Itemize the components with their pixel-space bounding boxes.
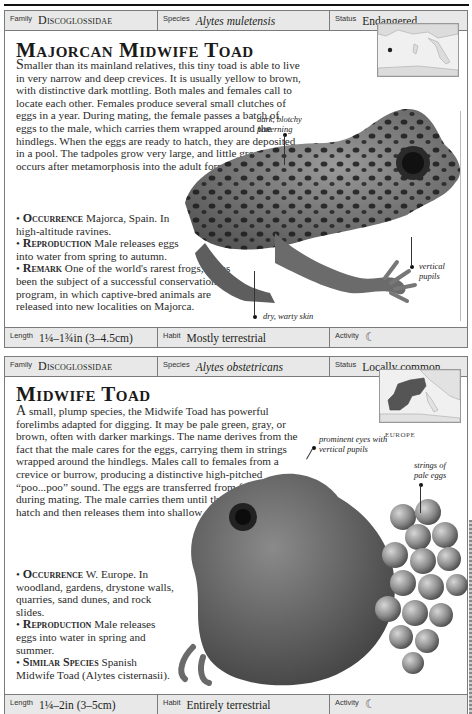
bullets-block-top: • Occurrence Majorca, Spain. In high-alt… <box>16 212 186 313</box>
footer-bar: Length 1¼–2in (3–5cm) Habit Entirely ter… <box>5 694 467 714</box>
family-label: Family <box>10 14 32 23</box>
annotation-dot <box>253 315 257 319</box>
activity-cell: Activity ☾ <box>330 695 467 714</box>
drop-letter: A <box>16 403 26 418</box>
bullet-reproduction: • Reproduction Male releases eggs into w… <box>16 618 176 656</box>
activity-label: Activity <box>335 698 359 707</box>
species-value: Alytes obstetricans <box>196 361 283 373</box>
habit-cell: Habit Mostly terrestrial <box>158 328 330 347</box>
habit-value: Entirely terrestrial <box>187 699 271 711</box>
species-entry-majorcan-midwife-toad: Family Discoglossidae Species Alytes mul… <box>4 10 468 348</box>
entry-title: Midwife Toad <box>16 384 151 405</box>
leader-line <box>284 135 285 165</box>
family-cell: Family Discoglossidae <box>5 357 158 376</box>
top-rule <box>4 4 469 6</box>
range-map-europe <box>379 369 461 423</box>
leader-line <box>254 271 255 315</box>
annotation-skin: dry, warty skin <box>263 312 313 322</box>
status-label: Status <box>335 14 356 23</box>
species-entry-midwife-toad: Family Discoglossidae Species Alytes obs… <box>4 356 468 714</box>
habit-value: Mostly terrestrial <box>187 332 267 344</box>
family-cell: Family Discoglossidae <box>5 11 158 30</box>
bullet-similar-species: • Similar Species Spanish Midwife Toad (… <box>16 656 176 681</box>
bullet-occurrence: • Occurrence W. Europe. In woodland, gar… <box>16 568 176 618</box>
footer-bar: Length 1¼–1¾in (3–4.5cm) Habit Mostly te… <box>5 327 467 347</box>
page-edge-line <box>460 111 461 321</box>
bullet-occurrence: • Occurrence Majorca, Spain. In high-alt… <box>16 212 186 237</box>
species-value: Alytes muletensis <box>196 15 276 27</box>
moon-icon: ☾ <box>365 330 376 345</box>
annotation-eyes: prominent eyes with vertical pupils <box>319 435 399 454</box>
annotation-blotchy: dark, blotchy patterning <box>257 115 303 134</box>
map-icon <box>378 24 458 76</box>
family-value: Discoglossidae <box>38 359 112 374</box>
length-cell: Length 1¼–2in (3–5cm) <box>5 695 158 714</box>
family-value: Discoglossidae <box>38 13 112 28</box>
length-value: 1¼–1¾in (3–4.5cm) <box>39 332 133 344</box>
leader-line <box>420 485 421 513</box>
habit-label: Habit <box>163 698 181 707</box>
midwife-toad-photo <box>173 457 472 693</box>
entry-title: Majorcan Midwife Toad <box>16 40 254 61</box>
annotation-pupils: vertical pupils <box>419 262 459 281</box>
status-label: Status <box>335 360 356 369</box>
species-label: Species <box>163 360 190 369</box>
moon-icon: ☾ <box>365 697 376 712</box>
annotation-dot <box>410 265 414 269</box>
length-label: Length <box>10 331 33 340</box>
length-label: Length <box>10 698 33 707</box>
annotation-eggs: strings of pale eggs <box>414 461 460 480</box>
majorcan-toad-photo <box>175 103 465 313</box>
bullet-reproduction: • Reproduction Male releases eggs into w… <box>16 237 186 262</box>
activity-cell: Activity ☾ <box>330 328 467 347</box>
habit-cell: Habit Entirely terrestrial <box>158 695 330 714</box>
leader-line <box>411 237 412 265</box>
length-cell: Length 1¼–1¾in (3–4.5cm) <box>5 328 158 347</box>
map-icon <box>380 370 460 422</box>
bullets-block: • Occurrence W. Europe. In woodland, gar… <box>16 568 176 681</box>
drop-letter: S <box>16 57 24 72</box>
activity-label: Activity <box>335 331 359 340</box>
species-cell: Species Alytes muletensis <box>158 11 330 30</box>
length-value: 1¼–2in (3–5cm) <box>39 699 116 711</box>
habit-label: Habit <box>163 331 181 340</box>
species-label: Species <box>163 14 190 23</box>
range-map-majorca <box>377 23 459 77</box>
species-cell: Species Alytes obstetricans <box>158 357 330 376</box>
family-label: Family <box>10 360 32 369</box>
